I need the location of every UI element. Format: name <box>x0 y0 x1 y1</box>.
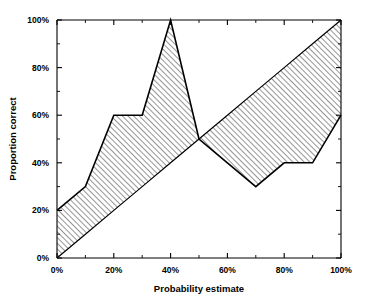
y-tick-label: 80% <box>32 63 49 73</box>
chart-figure: 0%20%40%60%80%100%0%20%40%60%80%100% Pro… <box>0 0 365 303</box>
y-tick-label: 100% <box>27 15 49 25</box>
y-tick-label: 20% <box>32 205 49 215</box>
y-tick-label: 0% <box>37 253 50 263</box>
x-tick-label: 0% <box>51 265 64 275</box>
y-tick-label: 60% <box>32 110 49 120</box>
x-tick-label: 20% <box>105 265 122 275</box>
x-tick-label: 100% <box>330 265 352 275</box>
y-tick-label: 40% <box>32 158 49 168</box>
y-axis-title: Proportion correct <box>7 96 18 180</box>
calibration-chart: 0%20%40%60%80%100%0%20%40%60%80%100% Pro… <box>0 0 365 303</box>
x-tick-label: 60% <box>219 265 236 275</box>
x-tick-label: 80% <box>276 265 293 275</box>
x-tick-label: 40% <box>162 265 179 275</box>
x-axis-title: Probability estimate <box>154 283 244 294</box>
